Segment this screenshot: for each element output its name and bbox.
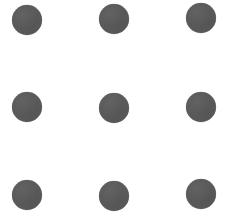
dot-r2-c1 (12, 92, 42, 122)
dot-r3-c1 (12, 180, 42, 210)
dot-r2-c2 (99, 93, 129, 123)
dot-grid-canvas (0, 0, 228, 221)
dot-r1-c2 (99, 4, 129, 34)
dot-r3-c2 (99, 181, 129, 211)
dot-r1-c1 (12, 5, 42, 35)
dot-r3-c3 (186, 179, 216, 209)
dot-r2-c3 (186, 92, 216, 122)
dot-r1-c3 (186, 3, 216, 33)
